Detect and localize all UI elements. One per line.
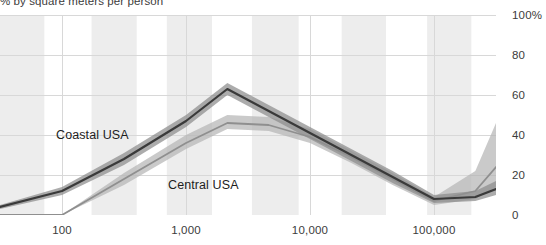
band-coastal [0, 83, 496, 209]
chart-root: % by square meters per person 100%806040… [0, 0, 546, 245]
y-tick-label: 0 [512, 209, 519, 221]
y-tick-label: 20 [512, 169, 525, 181]
y-tick-label: 60 [512, 89, 525, 101]
x-tick-label: 10,000 [292, 224, 328, 236]
chart-subtitle: % by square meters per person [0, 0, 163, 7]
x-tick-label: 100,000 [413, 224, 456, 236]
stripe-0 [0, 15, 44, 215]
x-tick-label: 100 [52, 224, 72, 236]
plot-svg [0, 15, 496, 215]
y-tick-label: 40 [512, 129, 525, 141]
y-axis: 100%806040200 [500, 15, 546, 215]
y-tick-label: 100% [512, 9, 542, 21]
x-tick-label: 1,000 [171, 224, 201, 236]
series-label-central: Central USA [168, 178, 239, 192]
y-tick-label: 80 [512, 49, 525, 61]
series-label-coastal: Coastal USA [56, 128, 129, 142]
x-axis: 1001,00010,000100,000 [0, 215, 496, 245]
plot-area [0, 15, 496, 215]
stripe-4 [342, 15, 386, 215]
